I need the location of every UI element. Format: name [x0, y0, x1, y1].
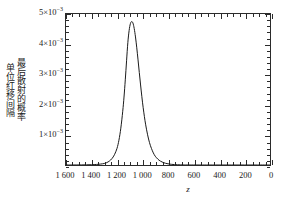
- y-axis-tick-label: 2×10−3: [39, 100, 63, 109]
- x-axis-tick-label: 0: [246, 170, 282, 180]
- data-curve: [66, 14, 270, 165]
- y-axis-tick-label: 5×10−3: [39, 8, 63, 17]
- y-axis-title-line-1: 单位红移间隔: [4, 63, 15, 117]
- x-axis-title: z: [0, 184, 282, 194]
- y-axis-tick-label: 4×10−3: [39, 39, 63, 48]
- curve-path: [66, 22, 270, 165]
- x-axis-title-text: z: [92, 184, 190, 194]
- x-major-tick-top: [272, 14, 273, 19]
- y-axis-title-line-2: 最后散射的概率: [15, 58, 26, 121]
- plot-area: [65, 13, 271, 166]
- x-major-tick: [272, 160, 273, 165]
- y-minor-tick-right: [267, 167, 270, 168]
- chart-figure: 单位红移间隔 最后散射的概率 1×10−32×10−33×10−34×10−35…: [0, 0, 282, 205]
- y-axis-tick-label: 3×10−3: [39, 69, 63, 78]
- y-axis-tick-label: 1×10−3: [39, 130, 63, 139]
- y-minor-tick: [66, 167, 69, 168]
- y-axis-title: 单位红移间隔 最后散射的概率: [0, 13, 30, 166]
